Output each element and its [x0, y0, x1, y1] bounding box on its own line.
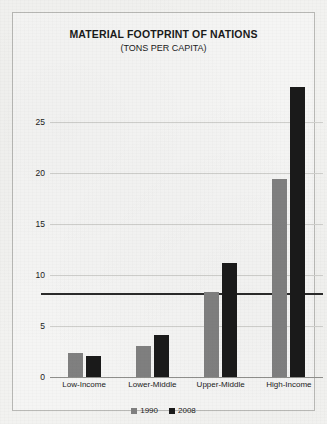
legend-item-2008: 2008 [169, 406, 196, 415]
gridline-20 [50, 173, 323, 174]
chart-subtitle: (TONS PER CAPITA) [13, 43, 314, 53]
x-category-label-upper-middle: Upper-Middle [197, 380, 245, 389]
y-tick-label-25: 25 [36, 118, 45, 126]
y-tick-label-0: 0 [40, 373, 45, 381]
legend-swatch-1990 [131, 408, 137, 414]
bar-lower-middle-2008 [154, 335, 169, 377]
bar-lower-middle-1990 [136, 346, 151, 377]
x-category-label-lower-middle: Lower-Middle [128, 380, 176, 389]
y-tick-label-10: 10 [36, 271, 45, 279]
bar-high-income-2008 [290, 87, 305, 377]
legend-label-2008: 2008 [178, 406, 196, 415]
gridline-25 [50, 122, 323, 123]
legend-item-1990: 1990 [131, 406, 158, 415]
chart-frame: MATERIAL FOOTPRINT OF NATIONS (TONS PER … [12, 12, 315, 411]
y-tick-label-5: 5 [40, 322, 45, 330]
chart-legend: 19902008 [13, 406, 314, 415]
bar-low-income-1990 [68, 353, 83, 377]
chart-title: MATERIAL FOOTPRINT OF NATIONS [13, 28, 314, 40]
y-tick-label-20: 20 [36, 169, 45, 177]
legend-label-1990: 1990 [140, 406, 158, 415]
y-tick-label-15: 15 [36, 220, 45, 228]
plot-area: 0510152025Low-IncomeLower-MiddleUpper-Mi… [50, 73, 323, 378]
legend-swatch-2008 [169, 408, 175, 414]
bar-upper-middle-2008 [222, 263, 237, 377]
bar-low-income-2008 [86, 356, 101, 377]
bar-high-income-1990 [272, 179, 287, 377]
x-category-label-low-income: Low-Income [62, 380, 106, 389]
gridline-0 [50, 377, 323, 378]
x-category-label-high-income: High-Income [266, 380, 311, 389]
bar-upper-middle-1990 [204, 292, 219, 377]
